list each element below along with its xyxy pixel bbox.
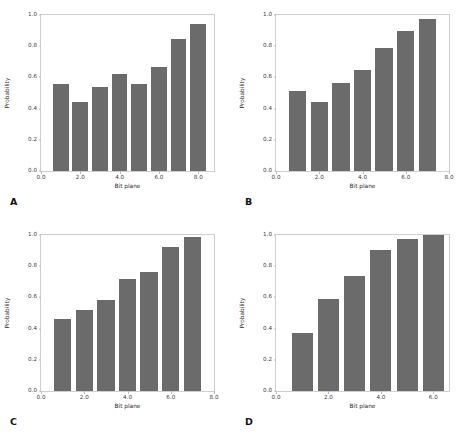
bar bbox=[53, 84, 69, 171]
x-tick-label: 0.0 bbox=[37, 395, 46, 401]
y-tick-mark bbox=[39, 297, 42, 298]
panel-d: Probability Bit plane 0.00.20.40.60.81.0… bbox=[235, 220, 470, 440]
panel-c-x-axis-label: Bit plane bbox=[115, 404, 141, 410]
x-tick-mark bbox=[381, 391, 382, 394]
bar bbox=[397, 31, 414, 171]
x-tick-mark bbox=[276, 391, 277, 394]
y-tick-mark bbox=[39, 359, 42, 360]
y-tick-mark bbox=[39, 266, 42, 267]
y-tick-mark bbox=[39, 77, 42, 78]
y-tick-mark bbox=[274, 46, 277, 47]
y-tick-label: 0.6 bbox=[28, 295, 37, 301]
x-tick-mark bbox=[84, 391, 85, 394]
y-tick-mark bbox=[274, 108, 277, 109]
y-tick-label: 0.6 bbox=[28, 75, 37, 81]
x-tick-mark bbox=[319, 171, 320, 174]
bar bbox=[354, 70, 371, 171]
y-tick-label: 0.0 bbox=[28, 388, 37, 394]
bar bbox=[190, 24, 206, 171]
bar bbox=[162, 247, 179, 391]
y-tick-label: 1.0 bbox=[263, 232, 272, 238]
panel-c-y-axis-label: Probability bbox=[6, 298, 12, 329]
y-tick-label: 0.0 bbox=[263, 388, 272, 394]
y-tick-label: 0.4 bbox=[263, 326, 272, 332]
panel-d-plot-area bbox=[276, 235, 449, 391]
panel-a-plot-area bbox=[41, 15, 214, 171]
bar bbox=[140, 272, 157, 391]
bar bbox=[419, 19, 436, 171]
panel-b: Probability Bit plane 0.00.20.40.60.81.0… bbox=[235, 0, 470, 220]
panel-a: Probability Bit plane 0.00.20.40.60.81.0… bbox=[0, 0, 235, 220]
x-tick-label: 2.0 bbox=[76, 175, 85, 181]
bar bbox=[97, 300, 114, 391]
bar bbox=[311, 102, 328, 171]
y-tick-mark bbox=[39, 46, 42, 47]
x-tick-mark bbox=[41, 171, 42, 174]
x-tick-mark bbox=[41, 391, 42, 394]
x-tick-label: 2.0 bbox=[80, 395, 89, 401]
x-tick-mark bbox=[171, 391, 172, 394]
x-tick-mark bbox=[80, 171, 81, 174]
y-tick-label: 0.8 bbox=[263, 263, 272, 269]
x-tick-label: 6.0 bbox=[155, 175, 164, 181]
x-tick-label: 8.0 bbox=[194, 175, 203, 181]
figure-four-panel-bar-charts: Probability Bit plane 0.00.20.40.60.81.0… bbox=[0, 0, 470, 440]
y-tick-label: 0.0 bbox=[28, 168, 37, 174]
y-tick-mark bbox=[39, 108, 42, 109]
y-tick-label: 0.8 bbox=[263, 43, 272, 49]
panel-b-x-axis-label: Bit plane bbox=[350, 184, 376, 190]
panel-b-axes: Probability Bit plane 0.00.20.40.60.81.0… bbox=[275, 14, 450, 172]
y-tick-label: 0.8 bbox=[28, 263, 37, 269]
bar bbox=[318, 299, 339, 391]
bar bbox=[131, 84, 147, 171]
bar bbox=[370, 250, 391, 391]
y-tick-label: 0.2 bbox=[263, 357, 272, 363]
x-tick-label: 4.0 bbox=[376, 395, 385, 401]
x-tick-label: 2.0 bbox=[324, 395, 333, 401]
bar bbox=[92, 87, 108, 171]
y-tick-label: 0.6 bbox=[263, 75, 272, 81]
bar bbox=[72, 102, 88, 171]
panel-c-plot-area bbox=[41, 235, 214, 391]
x-tick-mark bbox=[198, 171, 199, 174]
bar bbox=[184, 237, 201, 391]
y-tick-label: 0.2 bbox=[28, 137, 37, 143]
y-tick-mark bbox=[274, 297, 277, 298]
panel-d-axes: Probability Bit plane 0.00.20.40.60.81.0… bbox=[275, 234, 450, 392]
y-tick-mark bbox=[39, 139, 42, 140]
y-tick-mark bbox=[39, 15, 42, 16]
y-tick-label: 0.8 bbox=[28, 43, 37, 49]
y-tick-mark bbox=[274, 139, 277, 140]
panel-c-axes: Probability Bit plane 0.00.20.40.60.81.0… bbox=[40, 234, 215, 392]
bar bbox=[292, 333, 313, 392]
bar bbox=[344, 276, 365, 391]
x-tick-label: 4.0 bbox=[358, 175, 367, 181]
y-tick-label: 0.6 bbox=[263, 295, 272, 301]
panel-a-x-axis-label: Bit plane bbox=[115, 184, 141, 190]
x-tick-label: 4.0 bbox=[123, 395, 132, 401]
y-tick-mark bbox=[39, 235, 42, 236]
y-tick-mark bbox=[274, 328, 277, 329]
x-tick-mark bbox=[120, 171, 121, 174]
panel-letter-a: A bbox=[10, 197, 17, 207]
bar bbox=[397, 239, 418, 391]
y-tick-label: 0.0 bbox=[263, 168, 272, 174]
y-tick-label: 1.0 bbox=[28, 12, 37, 18]
y-tick-label: 0.2 bbox=[263, 137, 272, 143]
panel-letter-d: D bbox=[245, 417, 253, 427]
x-tick-mark bbox=[433, 391, 434, 394]
x-tick-label: 0.0 bbox=[272, 395, 281, 401]
bar bbox=[112, 74, 128, 171]
bar bbox=[171, 39, 187, 171]
x-tick-label: 2.0 bbox=[315, 175, 324, 181]
panel-c: Probability Bit plane 0.00.20.40.60.81.0… bbox=[0, 220, 235, 440]
bar bbox=[151, 67, 167, 171]
panel-a-y-axis-label: Probability bbox=[6, 78, 12, 109]
y-tick-label: 1.0 bbox=[263, 12, 272, 18]
x-tick-label: 0.0 bbox=[272, 175, 281, 181]
x-tick-mark bbox=[363, 171, 364, 174]
x-tick-mark bbox=[276, 171, 277, 174]
bar bbox=[76, 310, 93, 391]
x-tick-label: 6.0 bbox=[166, 395, 175, 401]
bar bbox=[289, 91, 306, 171]
